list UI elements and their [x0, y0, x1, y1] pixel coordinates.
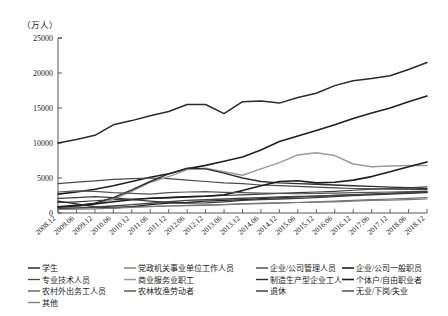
legend-label[interactable]: 专业技术人员 [42, 275, 90, 285]
y-tick-label: 20000 [33, 69, 53, 78]
x-tick-label: 2018.12 [402, 214, 426, 237]
legend-label[interactable]: 退休 [270, 286, 286, 296]
y-tick-label: 15000 [33, 104, 53, 113]
legend-label[interactable]: 企业/公司管理人员 [270, 263, 336, 273]
legend-label[interactable]: 农林牧渔劳动者 [138, 286, 194, 296]
legend-label[interactable]: 商业服务业职工 [138, 275, 194, 285]
series-line-0 [58, 63, 427, 144]
legend-label[interactable]: 企业/公司一般职员 [356, 263, 422, 273]
legend-label[interactable]: 学生 [42, 263, 58, 273]
legend-label[interactable]: 农村外出务工人员 [42, 286, 106, 296]
line-chart-plot: 05000100001500020000250002008.122009.062… [0, 0, 448, 316]
legend-label[interactable]: 制造生产型企业工人 [270, 275, 342, 285]
legend-label[interactable]: 党政机关事业单位工作人员 [138, 263, 234, 273]
y-tick-label: 5000 [37, 174, 53, 183]
series-line-4 [58, 178, 427, 190]
y-tick-label: 25000 [33, 34, 53, 43]
chart-figure: （万人） 05000100001500020000250002008.12200… [0, 0, 448, 316]
y-tick-label: 10000 [33, 139, 53, 148]
legend-label[interactable]: 个体户/自由职业者 [356, 275, 422, 285]
legend-label[interactable]: 其他 [42, 298, 58, 308]
legend-label[interactable]: 无业/下岗/失业 [356, 286, 408, 296]
